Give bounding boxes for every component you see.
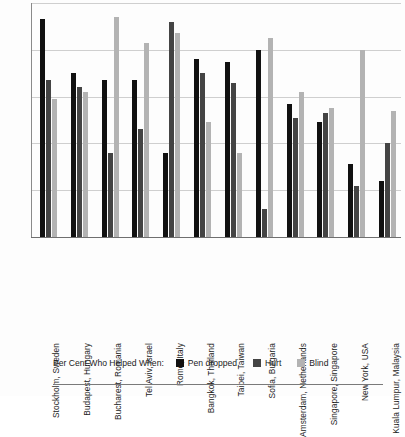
legend-label: Pen dropped — [188, 358, 237, 368]
bar — [262, 209, 267, 237]
bar — [206, 122, 211, 237]
bar — [144, 43, 149, 237]
bar — [225, 62, 230, 238]
bar-group — [379, 3, 396, 237]
plot-area — [31, 3, 401, 238]
bar-group — [132, 3, 149, 237]
bar — [138, 129, 143, 237]
bar — [102, 80, 107, 237]
bar — [323, 113, 328, 237]
bar-group — [348, 3, 365, 237]
legend-label: Hurt — [265, 358, 281, 368]
bar — [77, 87, 82, 237]
bar — [40, 19, 45, 237]
bar — [169, 22, 174, 237]
bar-group — [317, 3, 334, 237]
x-axis-label: Kuala Lumpur, Malaysia — [391, 343, 401, 434]
bar — [268, 38, 273, 237]
legend-label: Blind — [309, 358, 328, 368]
x-axis-label: Budapest, Hungary — [82, 343, 92, 416]
bar — [163, 153, 168, 237]
legend-items: Pen droppedHurtBlind — [176, 358, 345, 368]
bar — [52, 99, 57, 237]
bar — [329, 108, 334, 237]
bar-group — [225, 3, 242, 237]
bar — [379, 181, 384, 237]
bar — [231, 83, 236, 237]
bar — [299, 92, 304, 237]
bar-group — [163, 3, 180, 237]
legend-swatch — [176, 359, 184, 367]
bar-group — [71, 3, 88, 237]
bar — [385, 143, 390, 237]
bar — [200, 73, 205, 237]
bar — [175, 33, 180, 237]
bar — [194, 59, 199, 237]
bar — [114, 17, 119, 237]
bar-group — [287, 3, 304, 237]
bar — [237, 153, 242, 237]
bar — [256, 50, 261, 237]
bar — [108, 153, 113, 237]
bar — [360, 50, 365, 237]
bar — [391, 111, 396, 237]
legend-bottom-rule — [53, 384, 383, 385]
x-axis-line — [31, 237, 401, 238]
bar — [83, 92, 88, 237]
x-axis-label: Stockholm, Sweden — [51, 343, 61, 418]
x-axis-label: Bucharest, Romania — [113, 343, 123, 420]
bar-group — [256, 3, 273, 237]
bar-group — [102, 3, 119, 237]
bar-group — [40, 3, 57, 237]
x-axis-label: Bangkok, Thailand — [206, 343, 216, 413]
bar — [71, 73, 76, 237]
legend-swatch — [253, 359, 261, 367]
bar-group — [194, 3, 211, 237]
x-axis-labels: Stockholm, SwedenBudapest, HungaryBuchar… — [31, 240, 401, 345]
legend-title: Per Cent Who Helped When: — [53, 358, 164, 368]
bar — [293, 118, 298, 237]
legend-item: Hurt — [253, 358, 281, 368]
chart-legend: Per Cent Who Helped When: Pen droppedHur… — [53, 356, 344, 370]
x-axis-label: New York, USA — [360, 343, 370, 401]
bar — [132, 80, 137, 237]
legend-item: Pen dropped — [176, 358, 237, 368]
bar — [287, 104, 292, 237]
bar — [46, 80, 51, 237]
legend-swatch — [297, 359, 305, 367]
bar — [348, 164, 353, 237]
bar — [354, 186, 359, 237]
legend-item: Blind — [297, 358, 328, 368]
y-axis-line — [31, 3, 32, 238]
x-axis-label: Sofia, Bulgaria — [267, 343, 277, 398]
bar — [317, 122, 322, 237]
